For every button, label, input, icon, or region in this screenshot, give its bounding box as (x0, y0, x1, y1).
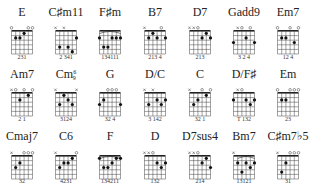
finger-dot (201, 161, 204, 164)
muted-string-icon (152, 89, 154, 91)
open-string-icon (27, 27, 30, 30)
nut (278, 92, 299, 94)
finger-dot (102, 166, 105, 169)
fingering-label: 3124 (60, 116, 72, 122)
finger-dot (209, 36, 212, 39)
muted-string-icon (148, 152, 150, 154)
finger-dot (27, 94, 30, 97)
finger-dot (164, 36, 167, 39)
finger-dot (106, 166, 109, 169)
chord-name: D/F♯ (232, 67, 257, 81)
chord-diagram: Bm713121 (232, 129, 256, 184)
muted-string-icon (54, 89, 56, 91)
finger-dot (240, 171, 243, 174)
nut (278, 30, 299, 32)
chord-name: Cmaj7 (6, 129, 38, 143)
chord-diagram: B7213 4 (143, 5, 167, 60)
fingering-label: 214 (196, 178, 205, 184)
open-string-icon (289, 27, 292, 30)
fingering-label: 32 (19, 178, 25, 184)
finger-dot (98, 157, 101, 160)
muted-string-icon (143, 152, 145, 154)
open-string-icon (276, 89, 279, 92)
open-string-icon (23, 89, 26, 92)
chord-diagram: C♯m7♭531 (268, 129, 309, 184)
finger-dot (245, 161, 248, 164)
chord-diagram: Em712 4 (276, 5, 300, 60)
chord-name: C♯m7♭5 (268, 129, 309, 143)
finger-dot (58, 166, 61, 169)
muted-string-icon (143, 27, 145, 29)
nut (190, 92, 211, 94)
muted-string-icon (188, 89, 190, 91)
muted-string-icon (232, 152, 234, 154)
nut (190, 155, 211, 157)
open-string-icon (289, 152, 292, 155)
chord-name: F♯m (99, 5, 122, 19)
muted-string-icon (188, 152, 190, 154)
muted-string-icon (75, 89, 77, 91)
chord-name: Em7 (277, 5, 300, 19)
finger-dot (284, 36, 287, 39)
finger-dot (62, 94, 65, 97)
finger-dot (156, 161, 159, 164)
finger-dot (205, 94, 208, 97)
fingering-label: 2 341 (59, 54, 73, 60)
open-string-icon (31, 152, 34, 155)
chord-name: D/C (145, 67, 165, 81)
finger-dot (192, 103, 195, 106)
chord-diagram: Gadd93 2 4 (228, 5, 260, 60)
nut (12, 155, 33, 157)
muted-string-icon (188, 27, 190, 29)
nut (100, 92, 121, 94)
open-string-icon (31, 89, 34, 92)
finger-dot (75, 36, 78, 39)
open-string-icon (23, 152, 26, 155)
chord-diagram: D/C3 142 (143, 67, 167, 122)
finger-dot (67, 46, 70, 49)
chord-name: Cm69 (56, 67, 76, 81)
muted-string-icon (54, 152, 56, 154)
chord-name: Am7 (10, 67, 34, 81)
open-string-icon (107, 89, 110, 92)
finger-dot (156, 98, 159, 101)
chord-diagram: Am72 1 (10, 67, 34, 122)
finger-dot (253, 161, 256, 164)
chord-diagram: E231 (10, 5, 34, 60)
open-string-icon (160, 27, 163, 30)
finger-dot (23, 32, 26, 35)
finger-dot (245, 98, 248, 101)
finger-dot (115, 157, 118, 160)
chord-diagram: G32 4 (98, 67, 122, 122)
finger-dot (71, 50, 74, 53)
fingering-label: 134211 (101, 178, 119, 184)
chord-diagram: D7sus4214 (182, 129, 218, 184)
open-string-icon (111, 89, 114, 92)
finger-dot (58, 103, 61, 106)
nut (145, 30, 166, 32)
chord-name: Bm7 (232, 129, 255, 143)
fingering-label: 32 1 (195, 116, 206, 122)
open-string-icon (241, 89, 244, 92)
finger-dot (284, 98, 287, 101)
muted-string-icon (54, 27, 56, 29)
fingering-label: 132 (151, 178, 160, 184)
open-string-icon (297, 27, 300, 30)
finger-dot (119, 36, 122, 39)
finger-dot (205, 157, 208, 160)
open-string-icon (14, 89, 17, 92)
fingering-label: 3 2 4 (238, 54, 250, 60)
chord-name: G (106, 67, 115, 81)
finger-dot (115, 36, 118, 39)
finger-dot (280, 36, 283, 39)
finger-dot (253, 41, 256, 44)
open-string-icon (197, 27, 200, 30)
finger-dot (249, 166, 252, 169)
finger-dot (293, 41, 296, 44)
finger-dot (58, 46, 61, 49)
open-string-icon (209, 89, 212, 92)
muted-string-icon (193, 152, 195, 154)
nut (145, 155, 166, 157)
finger-dot (147, 103, 150, 106)
fingering-label: 13121 (237, 178, 252, 184)
